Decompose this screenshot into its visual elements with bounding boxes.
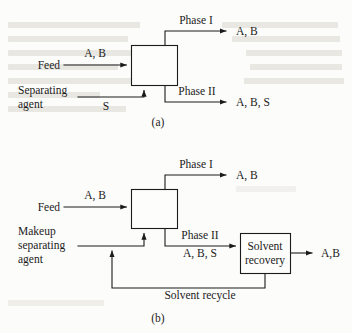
separating-agent-label-line1-a: Separating — [18, 84, 67, 97]
phase-1-label-a: Phase I — [179, 14, 213, 26]
phase-1-components-a: A, B — [236, 25, 258, 38]
caption-b: (b) — [151, 312, 165, 325]
makeup-label-line2: separating — [18, 239, 66, 252]
phase-2-label-b: Phase II — [181, 229, 219, 241]
phase-1-stream-line-b — [165, 175, 226, 190]
solvent-recovery-label-line2: recovery — [245, 254, 285, 267]
solvent-recovery-label-line1: Solvent — [247, 240, 283, 252]
phase-2-components-a: A, B, S — [236, 96, 270, 109]
phase-2-label-a: Phase II — [178, 85, 216, 97]
phase-1-label-b: Phase I — [179, 158, 213, 170]
caption-a: (a) — [152, 116, 165, 129]
phase-1-stream-line-a — [165, 31, 226, 46]
feed-label-a: Feed — [38, 59, 61, 71]
diagram-b: Solvent recovery Feed A, B Makeup separa… — [18, 158, 340, 325]
feed-label-b: Feed — [38, 201, 61, 213]
feed-components-b: A, B — [84, 189, 106, 202]
figure-page: Feed A, B Separating agent S Phase I A, … — [0, 0, 352, 333]
diagram-a: Feed A, B Separating agent S Phase I A, … — [18, 14, 270, 129]
separation-unit-box-a — [132, 46, 178, 86]
makeup-label-line3: agent — [18, 253, 44, 266]
separating-agent-components-a: S — [103, 100, 109, 112]
product-components-b: A,B — [321, 247, 340, 260]
solvent-recycle-label: Solvent recycle — [164, 289, 235, 302]
separating-agent-stream-line-a — [78, 91, 144, 98]
phase-2-components-b: A, B, S — [183, 247, 217, 260]
feed-components-a: A, B — [84, 47, 106, 60]
makeup-label-line1: Makeup — [18, 225, 56, 238]
makeup-separating-agent-stream-line — [78, 234, 144, 247]
phase-1-components-b: A, B — [236, 169, 258, 182]
separating-agent-label-line2-a: agent — [18, 98, 44, 111]
separation-unit-box-b — [132, 190, 178, 229]
process-flow-diagram: Feed A, B Separating agent S Phase I A, … — [0, 0, 352, 333]
